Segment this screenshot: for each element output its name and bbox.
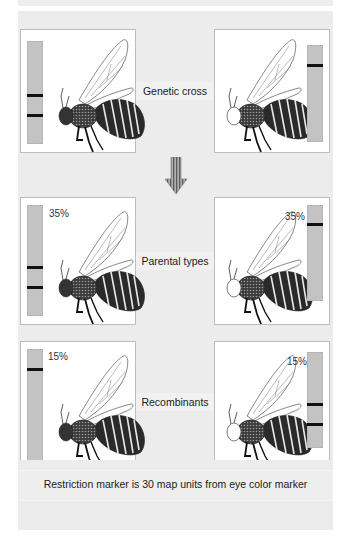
gel-band-restriction-marker <box>307 403 323 406</box>
row-label-parental-types: Parental types <box>136 252 214 270</box>
bee-light-eye-icon <box>213 208 317 326</box>
caption-panel: Restriction marker is 30 map units from … <box>18 460 333 530</box>
parent-light-eye-box <box>214 29 330 153</box>
gel-band-restriction-marker <box>27 368 43 371</box>
bee-light-eye-icon <box>213 352 317 470</box>
gel-band-restriction-marker <box>307 423 323 426</box>
gel-strip <box>27 205 43 316</box>
gel-strip <box>307 45 323 142</box>
bee-dark-eye-icon <box>45 208 149 326</box>
gel-band-restriction-marker <box>27 266 43 269</box>
percent-label: 35% <box>285 211 305 222</box>
caption-text: Restriction marker is 30 map units from … <box>18 478 333 490</box>
gel-band-restriction-marker <box>307 64 323 67</box>
recombinant-dark-eye-box: 15% <box>20 341 136 470</box>
gel-band-restriction-marker <box>27 286 43 289</box>
row-label-recombinants: Recombinants <box>136 393 214 411</box>
gel-band-restriction-marker <box>307 223 323 226</box>
recombinant-light-eye-box: 15% <box>214 341 330 470</box>
gel-band-restriction-marker <box>27 114 43 117</box>
bee-light-eye-icon <box>213 36 317 154</box>
row-label-genetic-cross: Genetic cross <box>136 82 214 100</box>
bee-dark-eye-icon <box>45 36 149 154</box>
bee-dark-eye-icon <box>45 352 149 470</box>
parental-light-eye-box: 35% <box>214 197 330 325</box>
parental-dark-eye-box: 35% <box>20 197 136 325</box>
top-strip <box>18 0 333 6</box>
percent-label: 15% <box>287 356 307 367</box>
down-arrow-icon <box>164 157 188 195</box>
gel-strip <box>27 349 43 461</box>
parent-dark-eye-box <box>20 29 136 153</box>
gel-band-restriction-marker <box>27 94 43 97</box>
gel-strip <box>307 352 323 448</box>
gel-strip <box>307 205 323 301</box>
gel-strip <box>27 41 43 144</box>
